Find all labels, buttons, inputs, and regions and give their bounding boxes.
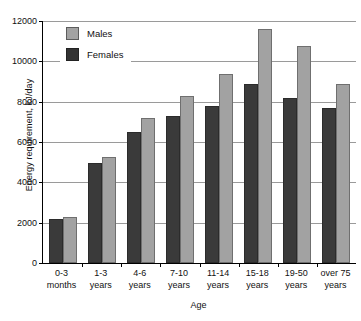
chart-legend: Males Females xyxy=(60,22,131,66)
y-axis-tick-label: 4000 xyxy=(17,177,37,187)
legend-swatch-females-icon xyxy=(66,48,79,61)
y-axis-tick-label: 8000 xyxy=(17,97,37,107)
y-axis-title: Energy requirement, kJ/day xyxy=(24,40,34,230)
legend-label-males: Males xyxy=(87,28,112,39)
bar-females xyxy=(322,108,336,263)
y-axis-tick-label: 10000 xyxy=(12,56,37,66)
bar-males xyxy=(102,157,116,263)
x-axis-tick-label: 7-10years xyxy=(159,268,198,291)
x-axis-tick-label: 15-18years xyxy=(238,268,277,291)
bar-females xyxy=(88,163,102,263)
x-axis-tick-label: 1-3years xyxy=(81,268,120,291)
bar-females xyxy=(127,132,141,263)
x-axis-tick-labels: 0-3months1-3years4-6years7-10years11-14y… xyxy=(42,268,355,291)
bar-females xyxy=(205,106,219,263)
legend-item-females: Females xyxy=(66,48,123,61)
x-axis-tick-label: 19-50years xyxy=(277,268,316,291)
energy-requirement-bar-chart: Energy requirement, kJ/day 0200040006000… xyxy=(0,0,361,321)
x-axis-tick-mark xyxy=(160,263,161,267)
bar-males xyxy=(297,46,311,263)
bar-females xyxy=(49,219,63,263)
x-axis-tick-mark xyxy=(200,263,201,267)
legend-item-males: Males xyxy=(66,27,123,40)
x-axis-tick-label: 0-3months xyxy=(42,268,81,291)
bar-males xyxy=(219,74,233,263)
y-axis-tick-label: 6000 xyxy=(17,137,37,147)
y-axis-tick-label: 2000 xyxy=(17,218,37,228)
bar-group xyxy=(200,21,239,263)
bar-males xyxy=(258,29,272,263)
bar-females xyxy=(166,116,180,263)
bar-males xyxy=(141,118,155,263)
y-axis-tick-mark xyxy=(39,263,43,264)
y-axis-tick-label: 12000 xyxy=(12,16,37,26)
x-axis-tick-label: 11-14years xyxy=(199,268,238,291)
x-axis-tick-label: over 75years xyxy=(316,268,355,291)
x-axis-tick-mark xyxy=(317,263,318,267)
x-axis-tick-mark xyxy=(239,263,240,267)
bar-group xyxy=(239,21,278,263)
y-axis-tick-label: 0 xyxy=(32,258,37,268)
bar-males xyxy=(180,96,194,263)
bar-group xyxy=(278,21,317,263)
bar-group xyxy=(160,21,199,263)
bar-males xyxy=(336,84,350,263)
x-axis-tick-label: 4-6years xyxy=(120,268,159,291)
bar-females xyxy=(283,98,297,263)
bar-group xyxy=(317,21,356,263)
bar-females xyxy=(244,84,258,263)
x-axis-tick-mark xyxy=(82,263,83,267)
x-axis-tick-mark xyxy=(121,263,122,267)
legend-swatch-males-icon xyxy=(66,27,79,40)
legend-label-females: Females xyxy=(87,49,123,60)
bar-males xyxy=(63,217,77,263)
x-axis-title: Age xyxy=(42,300,355,310)
x-axis-tick-mark xyxy=(278,263,279,267)
